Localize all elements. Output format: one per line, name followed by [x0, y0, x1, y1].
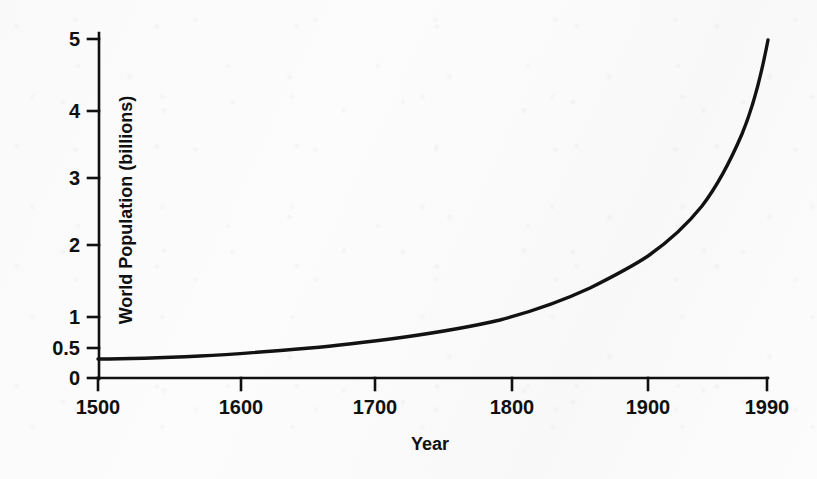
population-curve [98, 40, 768, 359]
y-tick-label-0: 0 [44, 367, 80, 390]
population-growth-chart: 5 4 3 2 1 0.5 0 1500 1600 1700 1800 1900… [0, 0, 817, 479]
y-axis-ticks [88, 39, 99, 378]
y-tick-label-0point5: 0.5 [26, 337, 80, 360]
x-tick-label-1500: 1500 [76, 396, 121, 419]
x-tick-label-1990: 1990 [745, 396, 790, 419]
x-axis-ticks [98, 378, 767, 390]
y-tick-label-4: 4 [44, 100, 80, 123]
y-tick-label-1: 1 [44, 306, 80, 329]
x-tick-label-1900: 1900 [626, 396, 671, 419]
y-axis-title: World Population (billions) [116, 96, 137, 325]
x-tick-label-1700: 1700 [353, 396, 398, 419]
y-tick-label-2: 2 [44, 234, 80, 257]
x-axis-title: Year [411, 434, 449, 455]
x-tick-label-1800: 1800 [490, 396, 535, 419]
y-tick-label-3: 3 [44, 167, 80, 190]
y-tick-label-5: 5 [44, 28, 80, 51]
x-tick-label-1600: 1600 [219, 396, 264, 419]
